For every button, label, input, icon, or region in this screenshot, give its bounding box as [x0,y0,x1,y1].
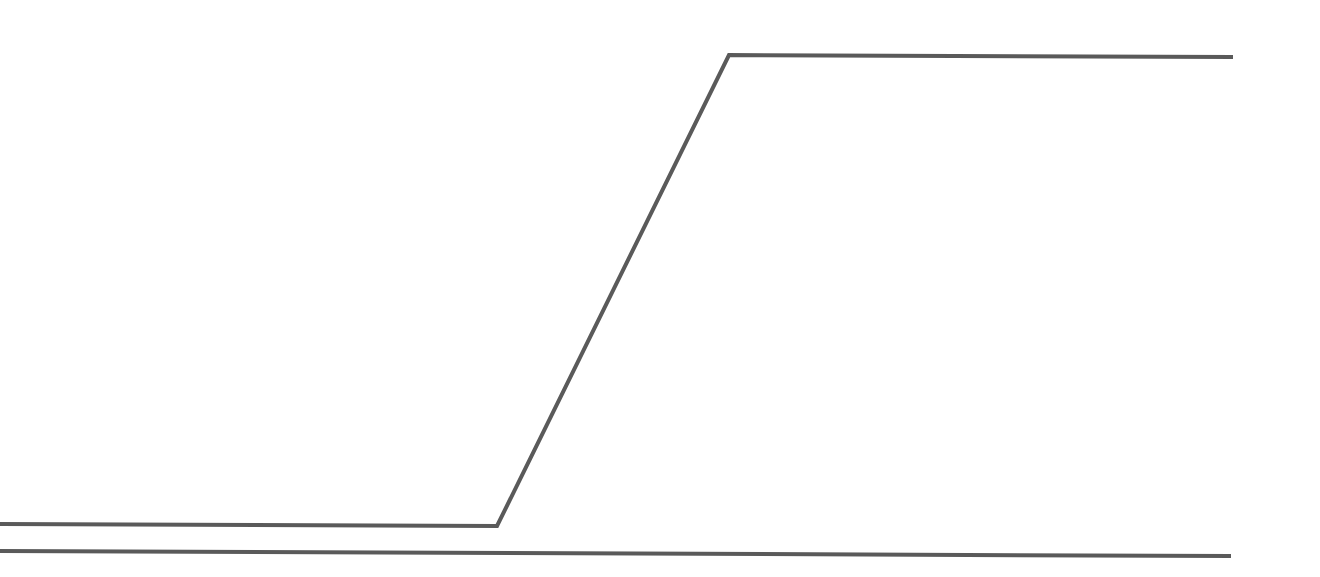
ramp-line [0,55,1233,526]
baseline [0,551,1231,556]
diagram-canvas [0,0,1320,577]
line-diagram [0,0,1320,577]
